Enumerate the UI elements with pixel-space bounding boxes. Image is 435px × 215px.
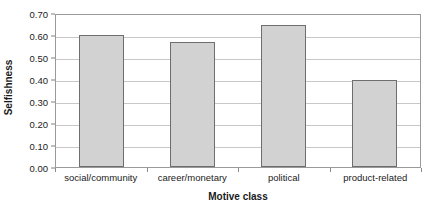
y-axis-tick-label: 0.30 (30, 97, 49, 108)
bar (261, 25, 306, 167)
bar-slot (238, 15, 329, 167)
y-axis-tick-label: 0.70 (30, 9, 49, 20)
x-axis-tick-labels: social/communitycareer/monetarypolitical… (55, 172, 421, 183)
y-axis-tick-label: 0.40 (30, 75, 49, 86)
y-axis-tick-labels: 0.700.600.500.400.300.200.100.00 (18, 14, 52, 168)
bars-container (56, 15, 420, 167)
y-axis-tick-label: 0.10 (30, 141, 49, 152)
y-axis-tick-label: 0.50 (30, 53, 49, 64)
x-axis-title: Motive class (55, 191, 421, 202)
plot-area (55, 14, 421, 168)
y-axis-title-label: Selfishness (4, 60, 15, 116)
x-axis-tick-label: career/monetary (147, 172, 239, 183)
y-axis-title: Selfishness (0, 0, 18, 175)
bar-chart: Selfishness 0.700.600.500.400.300.200.10… (0, 0, 435, 215)
x-axis-tick-label: political (238, 172, 330, 183)
y-axis-tick-label: 0.20 (30, 119, 49, 130)
y-axis-tick-label: 0.00 (30, 163, 49, 174)
x-axis-tick-label: product-related (330, 172, 422, 183)
y-axis-tick-label: 0.60 (30, 31, 49, 42)
bar (352, 80, 397, 167)
x-axis-tick-mark (421, 168, 422, 172)
bar (79, 35, 124, 167)
bar-slot (329, 15, 420, 167)
bar-slot (147, 15, 238, 167)
bar (170, 42, 215, 167)
bar-slot (56, 15, 147, 167)
x-axis-tick-label: social/community (55, 172, 147, 183)
